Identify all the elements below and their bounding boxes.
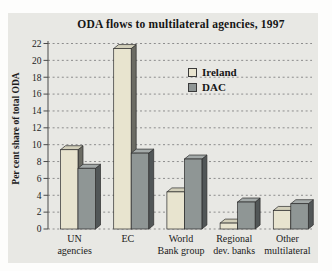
bar-ireland-2 [167,192,185,229]
y-tick-label: 4 [37,191,42,201]
bar-dac-0 [78,168,96,229]
figure: ODA flows to multilateral agencies, 1997… [0,0,332,271]
bar-dac-2 [184,159,202,229]
y-tick-label: 14 [32,106,42,116]
x-category-label: dev. banks [213,245,255,256]
y-tick-label: 16 [32,89,42,99]
plot-area: 0246810121416182022UNagenciesECWorldBank… [8,13,318,263]
bar-dac-1 [131,153,149,229]
x-category-label: EC [121,233,134,244]
legend-item-dac: DAC [188,81,237,93]
bar-dac-3 [238,202,256,229]
x-category-label: Other [276,233,299,244]
legend-swatch-ireland [188,68,197,77]
y-tick-label: 22 [32,39,42,49]
bar-side-dac-3 [255,198,260,229]
bar-side-dac-2 [202,155,207,229]
bar-ireland-4 [273,210,291,229]
x-category-label: Bank group [158,245,205,256]
legend: Ireland DAC [188,66,237,93]
y-tick-label: 0 [37,224,42,234]
x-category-label: World [169,233,194,244]
legend-swatch-dac [188,83,197,92]
bar-ireland-1 [114,49,132,229]
y-tick-label: 10 [32,140,42,150]
y-tick-label: 8 [37,157,42,167]
bar-side-dac-0 [96,164,101,229]
y-tick-label: 2 [37,207,42,217]
x-category-label: agencies [57,245,92,256]
x-category-label: UN [67,233,81,244]
y-tick-label: 20 [32,56,42,66]
bar-side-dac-1 [149,149,154,229]
legend-label-ireland: Ireland [202,66,237,78]
legend-item-ireland: Ireland [188,66,237,78]
y-tick-label: 12 [32,123,42,133]
bar-side-dac-4 [308,200,313,229]
chart-panel: ODA flows to multilateral agencies, 1997… [8,13,318,263]
x-category-label: Regional [216,233,252,244]
bar-ireland-3 [220,223,238,229]
x-category-label: multilateral [264,245,310,256]
y-tick-label: 6 [37,174,42,184]
bar-ireland-0 [61,150,79,229]
bar-dac-4 [291,204,309,229]
legend-label-dac: DAC [202,81,226,93]
y-tick-label: 18 [32,73,42,83]
